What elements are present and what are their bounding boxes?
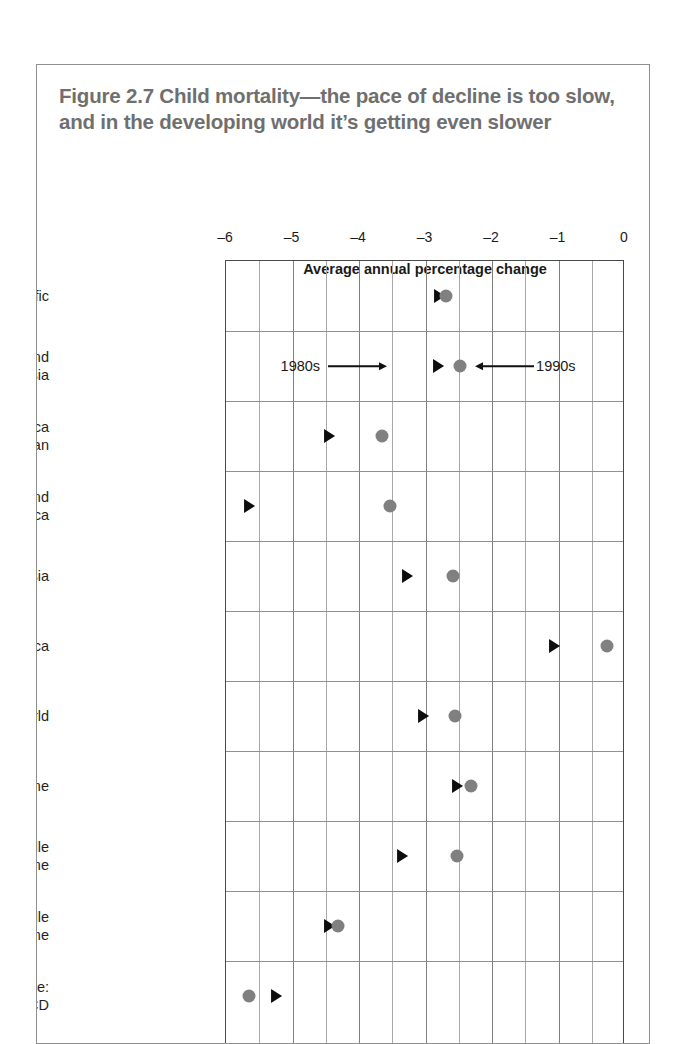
x-tick-label: –5 — [284, 229, 300, 245]
data-point-triangle-1980s — [244, 499, 255, 513]
data-point-triangle-1980s — [433, 359, 444, 373]
vertical-gridline-minor — [259, 261, 260, 1044]
annotation-1980s-label: 1980s — [281, 358, 321, 374]
data-point-triangle-1980s — [549, 639, 560, 653]
vertical-gridline-minor — [459, 261, 460, 1044]
data-point-circle-1990s — [243, 990, 256, 1003]
x-tick-label: 0 — [620, 229, 628, 245]
row-separator — [226, 961, 623, 962]
x-tick-label: –1 — [550, 229, 566, 245]
data-point-triangle-1980s — [402, 569, 413, 583]
vertical-gridline-major — [426, 261, 427, 1044]
category-label: Latin Americaand the Caribbean — [36, 418, 49, 454]
row-separator — [226, 331, 623, 332]
row-separator — [226, 751, 623, 752]
category-label: East Asia and Pacific — [36, 287, 49, 305]
category-label: Lower middleincome — [36, 838, 49, 874]
data-point-circle-1990s — [447, 570, 460, 583]
row-separator — [226, 681, 623, 682]
annotation-1990s-arrow — [482, 365, 534, 367]
category-label-line: Europe and — [36, 348, 49, 366]
category-label-line: Sub-Saharan Africa — [36, 637, 49, 655]
data-point-circle-1990s — [331, 920, 344, 933]
category-label-line: Latin America — [36, 418, 49, 436]
category-label-line: Upper middle — [36, 908, 49, 926]
plot-area: 1980s1990s — [225, 260, 624, 1044]
category-label-line: Middle East and — [36, 488, 49, 506]
category-label: Upper middleincome — [36, 908, 49, 944]
data-point-triangle-1980s — [271, 989, 282, 1003]
data-point-circle-1990s — [464, 780, 477, 793]
category-label: Developing world — [36, 707, 49, 725]
row-separator — [226, 891, 623, 892]
category-label: Middle East andNorth Africa — [36, 488, 49, 524]
category-label: South Asia — [36, 567, 49, 585]
category-label-line: income — [36, 856, 49, 874]
category-label-line: Lower middle — [36, 838, 49, 856]
data-point-triangle-1980s — [452, 779, 463, 793]
row-separator — [226, 401, 623, 402]
data-point-circle-1990s — [384, 500, 397, 513]
figure-title: Figure 2.7 Child mortality—the pace of d… — [59, 83, 619, 135]
vertical-gridline-major — [492, 261, 493, 1044]
category-label: High income:non-OECD — [36, 978, 49, 1014]
x-tick-label: –6 — [217, 229, 233, 245]
data-point-circle-1990s — [376, 430, 389, 443]
category-label-line: Low income — [36, 777, 49, 795]
row-separator — [226, 821, 623, 822]
category-label: Europe andCentral Asia — [36, 348, 49, 384]
row-separator — [226, 541, 623, 542]
category-label-line: Developing world — [36, 707, 49, 725]
category-label-line: North Africa — [36, 506, 49, 524]
category-label-line: non-OECD — [36, 996, 49, 1014]
category-label-line: South Asia — [36, 567, 49, 585]
data-point-circle-1990s — [449, 710, 462, 723]
category-label: Sub-Saharan Africa — [36, 637, 49, 655]
category-label: Low income — [36, 777, 49, 795]
vertical-gridline-minor — [525, 261, 526, 1044]
data-point-circle-1990s — [440, 290, 453, 303]
data-point-triangle-1980s — [324, 429, 335, 443]
x-tick-label: –2 — [483, 229, 499, 245]
category-label-line: High income: — [36, 978, 49, 996]
annotation-1980s-arrow — [328, 365, 380, 367]
vertical-gridline-major — [293, 261, 294, 1044]
category-label-line: income — [36, 926, 49, 944]
vertical-gridline-major — [359, 261, 360, 1044]
vertical-gridline-minor — [392, 261, 393, 1044]
category-label-line: East Asia and Pacific — [36, 287, 49, 305]
category-label-line: and the Caribbean — [36, 436, 49, 454]
figure-card: Figure 2.7 Child mortality—the pace of d… — [36, 64, 650, 1044]
row-separator — [226, 611, 623, 612]
category-label-line: Central Asia — [36, 366, 49, 384]
x-tick-label: –3 — [417, 229, 433, 245]
data-point-triangle-1980s — [397, 849, 408, 863]
data-point-circle-1990s — [454, 360, 467, 373]
vertical-gridline-minor — [592, 261, 593, 1044]
x-tick-label: –4 — [350, 229, 366, 245]
data-point-circle-1990s — [450, 850, 463, 863]
row-separator — [226, 471, 623, 472]
data-point-triangle-1980s — [418, 709, 429, 723]
data-point-circle-1990s — [601, 640, 614, 653]
annotation-1990s-label: 1990s — [536, 358, 576, 374]
